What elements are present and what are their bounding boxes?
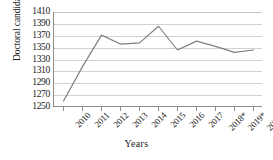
y-tick-label: 1410 [24, 7, 50, 17]
line-chart: Doctoral candidates 14101390137013501330… [0, 0, 273, 160]
x-tick-label: 2011 [92, 111, 110, 129]
y-tick-label: 1330 [24, 55, 50, 65]
y-tick-label: 1370 [24, 31, 50, 41]
y-tick-label: 1270 [24, 90, 50, 100]
y-axis-title: Doctoral candidates [12, 0, 24, 72]
y-tick-label: 1310 [24, 66, 50, 76]
x-tick-label: 2018* [227, 111, 249, 133]
y-tick-label: 1290 [24, 78, 50, 88]
x-tick-label: 2015 [169, 111, 188, 130]
x-tick-label: 2017 [207, 111, 226, 130]
data-series-line [54, 12, 263, 107]
x-tick-label: 2010 [74, 111, 93, 130]
series-polyline [64, 26, 254, 101]
y-tick-label: 1390 [24, 19, 50, 29]
x-axis-tick-labels: 201020112012201320142015201620172018*201… [0, 108, 273, 140]
x-tick-label: 2016 [188, 111, 207, 130]
x-tick-label: 2019* [246, 111, 268, 133]
x-tick-label: 2013 [131, 111, 150, 130]
x-tick-label: 2014 [150, 111, 169, 130]
plot-area [53, 12, 262, 107]
x-axis-title: Years [0, 138, 273, 149]
x-tick-label: 2012 [112, 111, 131, 130]
y-tick-label: 1350 [24, 43, 50, 53]
